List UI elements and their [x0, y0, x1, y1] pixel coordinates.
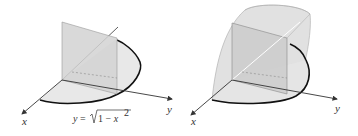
- y-axis-label: y: [166, 103, 172, 115]
- equation-label: y = 1 − x 2: [72, 107, 131, 124]
- y-axis-label: y: [334, 102, 340, 114]
- svg-text:1 − x: 1 − x: [98, 113, 119, 124]
- svg-text:2: 2: [124, 107, 129, 118]
- left-panel: x y y = 1 − x 2: [21, 22, 172, 127]
- x-axis-label: x: [21, 115, 27, 127]
- right-panel: x y: [190, 5, 340, 127]
- svg-text:y =: y =: [72, 113, 86, 124]
- figure-canvas: x y y = 1 − x 2 x y: [0, 0, 358, 136]
- x-axis-label: x: [190, 115, 196, 127]
